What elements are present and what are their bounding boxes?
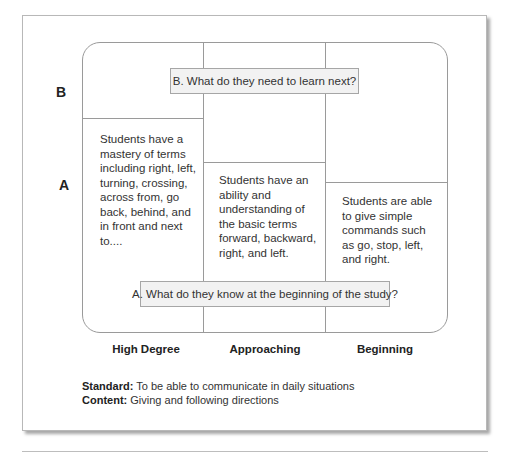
question-b-box: B. What do they need to learn next? — [170, 68, 359, 94]
column-label-approaching: Approaching — [205, 343, 325, 355]
standard-text: To be able to communicate in daily situa… — [133, 380, 354, 392]
content-label: Content: — [82, 394, 127, 406]
high-degree-bar-top — [82, 118, 204, 119]
row-label-a: A — [59, 177, 69, 193]
approaching-bar-top — [203, 162, 326, 163]
question-a-box: A. What do they know at the beginning of… — [140, 281, 390, 307]
content-line: Content: Giving and following directions — [82, 394, 279, 406]
standard-line: Standard: To be able to communicate in d… — [82, 380, 355, 392]
beginning-description: Students are able to give simple command… — [342, 194, 438, 267]
column-label-beginning: Beginning — [325, 343, 445, 355]
beginning-bar-top — [325, 182, 448, 183]
approaching-description: Students have an ability and understandi… — [219, 173, 321, 260]
row-label-b: B — [56, 84, 66, 100]
separator-rule — [22, 451, 488, 452]
high-degree-description: Students have a mastery of terms includi… — [100, 132, 200, 248]
column-label-high-degree: High Degree — [86, 343, 206, 355]
standard-label: Standard: — [82, 380, 133, 392]
content-text: Giving and following directions — [127, 394, 279, 406]
